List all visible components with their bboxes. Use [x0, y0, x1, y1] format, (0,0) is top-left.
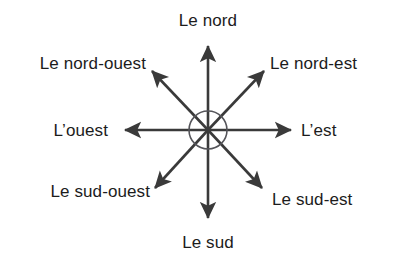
direction-label-south: Le sud: [182, 234, 234, 251]
direction-label-east: L’est: [301, 122, 336, 139]
direction-label-north-west: Le nord-ouest: [40, 55, 146, 72]
direction-label-south-east: Le sud-est: [272, 191, 352, 208]
direction-label-south-west: Le sud-ouest: [51, 183, 151, 200]
direction-label-north: Le nord: [179, 12, 237, 29]
arrow-south-east: [208, 130, 262, 188]
arrow-north-west: [152, 71, 208, 130]
arrow-south-west: [155, 130, 208, 188]
compass-rose-diagram: Le nord Le nord-est L’est Le sud-est Le …: [0, 0, 394, 265]
arrow-north-east: [208, 71, 264, 130]
direction-label-west: L’ouest: [53, 122, 108, 139]
direction-label-north-east: Le nord-est: [270, 55, 357, 72]
